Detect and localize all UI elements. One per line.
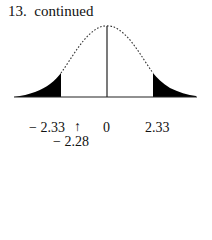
center-zero-label: 0 <box>103 121 110 135</box>
left-critical-value-label: − 2.33 <box>29 121 65 135</box>
left-tail-shaded-region <box>14 73 61 97</box>
right-critical-value-label: 2.33 <box>145 121 170 135</box>
up-arrow-icon: ↑ <box>74 120 81 134</box>
right-tail-shaded-region <box>153 73 196 97</box>
test-statistic-label: − 2.28 <box>53 135 89 149</box>
